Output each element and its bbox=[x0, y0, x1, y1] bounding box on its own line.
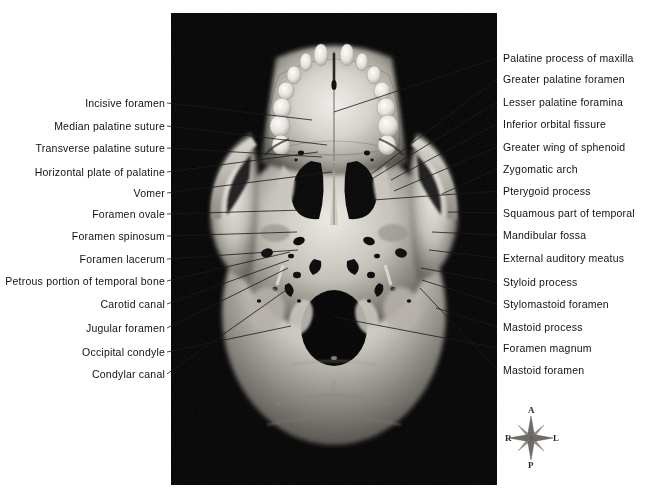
label-condylar-canal: Condylar canal bbox=[92, 369, 165, 380]
label-horizontal-plate-of-palatine: Horizontal plate of palatine bbox=[35, 167, 165, 178]
compass-right-label: R bbox=[505, 433, 512, 443]
label-stylomastoid-foramen: Stylomastoid foramen bbox=[503, 299, 609, 310]
label-vomer: Vomer bbox=[134, 188, 165, 199]
compass-left-label: L bbox=[553, 433, 559, 443]
compass-posterior-label: P bbox=[528, 460, 534, 470]
label-mastoid-process: Mastoid process bbox=[503, 322, 583, 333]
label-lesser-palatine-foramina: Lesser palatine foramina bbox=[503, 97, 623, 108]
label-inferior-orbital-fissure: Inferior orbital fissure bbox=[503, 119, 606, 130]
orientation-compass: A P R L bbox=[497, 403, 577, 479]
label-transverse-palatine-suture: Transverse palatine suture bbox=[36, 143, 165, 154]
label-styloid-process: Styloid process bbox=[503, 277, 577, 288]
label-jugular-foramen: Jugular foramen bbox=[86, 323, 165, 334]
anatomical-figure: Incisive foramenMedian palatine sutureTr… bbox=[0, 0, 645, 501]
label-incisive-foramen: Incisive foramen bbox=[85, 98, 165, 109]
label-foramen-spinosum: Foramen spinosum bbox=[72, 231, 165, 242]
label-pterygoid-process: Pterygoid process bbox=[503, 186, 591, 197]
label-squamous-part-of-temporal: Squamous part of temporal bbox=[503, 208, 635, 219]
label-external-auditory-meatus: External auditory meatus bbox=[503, 253, 624, 264]
label-zygomatic-arch: Zygomatic arch bbox=[503, 164, 578, 175]
label-carotid-canal: Carotid canal bbox=[100, 299, 165, 310]
label-greater-palatine-foramen: Greater palatine foramen bbox=[503, 74, 625, 85]
skull-photograph bbox=[171, 13, 497, 485]
label-foramen-magnum: Foramen magnum bbox=[503, 343, 592, 354]
label-foramen-lacerum: Foramen lacerum bbox=[80, 254, 165, 265]
label-median-palatine-suture: Median palatine suture bbox=[54, 121, 165, 132]
label-mastoid-foramen: Mastoid foramen bbox=[503, 365, 584, 376]
skull-photo-graphic bbox=[171, 13, 497, 485]
label-palatine-process-of-maxilla: Palatine process of maxilla bbox=[503, 53, 634, 64]
label-foramen-ovale: Foramen ovale bbox=[92, 209, 165, 220]
label-petrous-portion-of-temporal-bone: Petrous portion of temporal bone bbox=[5, 276, 165, 287]
label-greater-wing-of-sphenoid: Greater wing of sphenoid bbox=[503, 142, 625, 153]
label-mandibular-fossa: Mandibular fossa bbox=[503, 230, 586, 241]
compass-anterior-label: A bbox=[528, 405, 535, 415]
label-occipital-condyle: Occipital condyle bbox=[82, 347, 165, 358]
